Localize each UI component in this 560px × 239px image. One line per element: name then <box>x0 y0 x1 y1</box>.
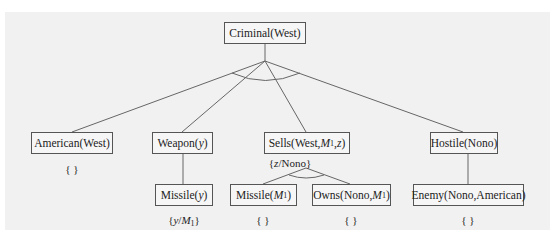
node-label: Missile( <box>236 189 274 201</box>
subst-missile-m1: { } <box>256 214 269 226</box>
node-missile-m1: Missile(M1) <box>230 184 297 206</box>
subst-owns: { } <box>344 214 357 226</box>
var: M <box>274 189 284 201</box>
subst-missile-y: {y/M1} <box>168 214 200 228</box>
node-label: Criminal(West) <box>229 27 300 39</box>
node-weapon-y: Weapon(y) <box>152 132 213 154</box>
node-label: Enemy(Nono,American) <box>412 189 526 201</box>
node-label: Sells(West, <box>269 137 321 149</box>
node-owns: Owns(Nono,M1) <box>312 184 391 206</box>
node-criminal-west: Criminal(West) <box>224 22 306 44</box>
node-label: Hostile(Nono) <box>431 137 497 149</box>
node-label: American(West) <box>34 137 110 149</box>
node-label: ) <box>287 189 291 201</box>
node-label: ) <box>203 189 207 201</box>
node-sells: Sells(West,M1,z) <box>264 132 350 154</box>
text: } <box>195 214 200 226</box>
node-label: ) <box>341 137 345 149</box>
subst-american: { } <box>65 163 78 175</box>
node-label: Missile( <box>161 189 199 201</box>
subst-sells: {z/Nono} <box>269 157 311 169</box>
text: /Nono} <box>278 157 311 169</box>
var: M <box>320 137 330 149</box>
node-label: ) <box>204 137 208 149</box>
node-label: ) <box>386 189 390 201</box>
node-label: Owns(Nono, <box>313 189 372 201</box>
node-label: Weapon( <box>157 137 198 149</box>
node-enemy: Enemy(Nono,American) <box>413 184 524 206</box>
node-hostile-nono: Hostile(Nono) <box>430 132 498 154</box>
subst-enemy: { } <box>461 214 474 226</box>
node-american-west: American(West) <box>31 132 113 154</box>
and-arc-sells <box>289 175 324 178</box>
and-arc-root <box>232 73 300 81</box>
node-missile-y: Missile(y) <box>155 184 213 206</box>
var: M <box>372 189 382 201</box>
